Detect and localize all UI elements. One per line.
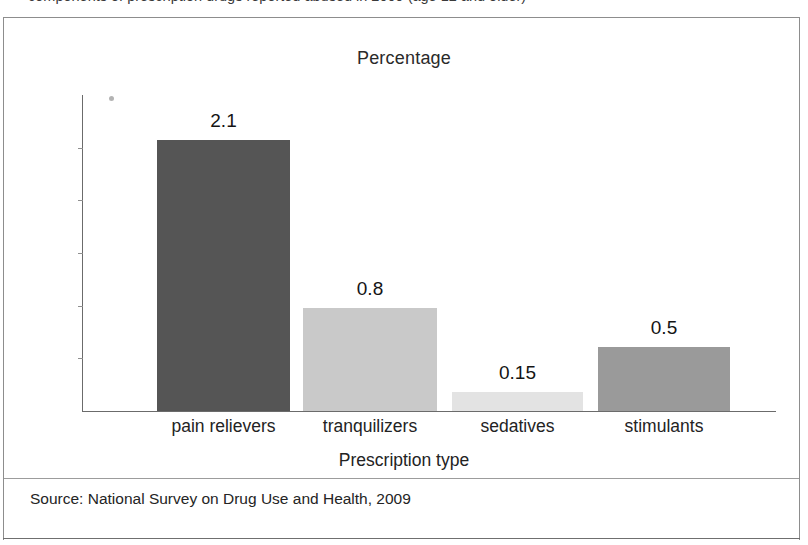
chart-title: Percentage (0, 48, 808, 69)
bar-value-label: 0.5 (651, 317, 677, 339)
bar[interactable] (452, 392, 583, 411)
bar-value-label: 2.1 (210, 110, 236, 132)
x-axis-category-labels: pain relieverstranquilizerssedativesstim… (82, 416, 776, 444)
x-axis-category-label: pain relievers (157, 416, 290, 437)
x-axis-title: Prescription type (0, 450, 808, 471)
plot-area: 2.10.80.150.5 (82, 95, 776, 412)
figure-page: components of prescription drugs reporte… (0, 0, 808, 545)
bar-group: 0.5 (598, 95, 730, 411)
cropped-caption-sliver: components of prescription drugs reporte… (0, 0, 808, 15)
bar-series: 2.10.80.150.5 (82, 95, 776, 411)
bar-group: 2.1 (157, 95, 290, 411)
cropped-caption-text: components of prescription drugs reporte… (28, 0, 526, 4)
bar[interactable] (598, 347, 730, 411)
x-axis-category-label: stimulants (598, 416, 730, 437)
x-axis-line (82, 411, 776, 412)
bar-group: 0.8 (303, 95, 437, 411)
source-divider (4, 478, 799, 479)
bar-group: 0.15 (452, 95, 583, 411)
bar-value-label: 0.8 (357, 278, 383, 300)
x-axis-category-label: tranquilizers (303, 416, 437, 437)
figure-frame-bottom-rule (3, 538, 800, 539)
bar[interactable] (303, 308, 437, 411)
source-note: Source: National Survey on Drug Use and … (30, 490, 411, 508)
bar[interactable] (157, 140, 290, 411)
bar-value-label: 0.15 (499, 362, 536, 384)
x-axis-category-label: sedatives (452, 416, 583, 437)
